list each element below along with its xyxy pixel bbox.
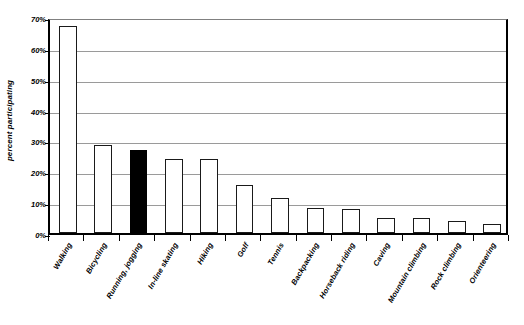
- bar: [165, 159, 183, 233]
- x-axis-label-slot: Walking: [48, 241, 83, 325]
- x-axis-label: Caving: [371, 241, 392, 268]
- x-axis-label: Orienteering: [467, 241, 498, 285]
- y-axis-tick-label: 60%: [18, 45, 46, 54]
- x-axis-label-slot: Horseback riding: [331, 241, 366, 325]
- x-axis-label-slot: Orienteering: [473, 241, 508, 325]
- bar-chart: percent participating 0%10%20%30%40%50%6…: [0, 0, 524, 325]
- x-axis-tick-mark: [508, 235, 509, 241]
- plot-area: [48, 19, 508, 235]
- x-axis-label: Hiking: [195, 241, 215, 266]
- x-axis-label-slot: Golf: [225, 241, 260, 325]
- bar: [413, 218, 431, 233]
- x-axis-labels: WalkingBicyclingRunning, joggingIn-line …: [48, 241, 508, 325]
- x-axis-label: Tennis: [266, 241, 286, 267]
- y-axis-tick-labels: 0%10%20%30%40%50%60%70%: [18, 19, 46, 235]
- bar: [377, 218, 395, 233]
- bars-layer: [50, 20, 506, 233]
- y-axis-tick-label: 0%: [18, 231, 46, 240]
- y-axis-tick-label: 40%: [18, 107, 46, 116]
- x-axis-label-slot: Rock climbing: [437, 241, 472, 325]
- bar: [130, 150, 148, 233]
- bar: [448, 221, 466, 233]
- bar: [236, 185, 254, 233]
- bar: [94, 145, 112, 233]
- x-axis-label: Walking: [51, 241, 73, 271]
- y-axis-title: percent participating: [0, 0, 20, 240]
- y-axis-title-text: percent participating: [6, 79, 15, 160]
- bar: [200, 159, 218, 233]
- y-axis-tick-label: 20%: [18, 169, 46, 178]
- bar: [307, 208, 325, 233]
- x-axis-label: Golf: [235, 241, 250, 259]
- x-axis-label: Bicycling: [84, 241, 109, 275]
- bar: [483, 224, 501, 233]
- y-axis-tick-label: 70%: [18, 15, 46, 24]
- bar: [271, 198, 289, 233]
- y-axis-tick-label: 30%: [18, 138, 46, 147]
- bar: [59, 26, 77, 233]
- bar: [342, 209, 360, 233]
- y-axis-tick-label: 50%: [18, 76, 46, 85]
- x-axis-label-slot: Hiking: [190, 241, 225, 325]
- y-axis-tick-label: 10%: [18, 200, 46, 209]
- x-axis-label-slot: In-line skating: [154, 241, 189, 325]
